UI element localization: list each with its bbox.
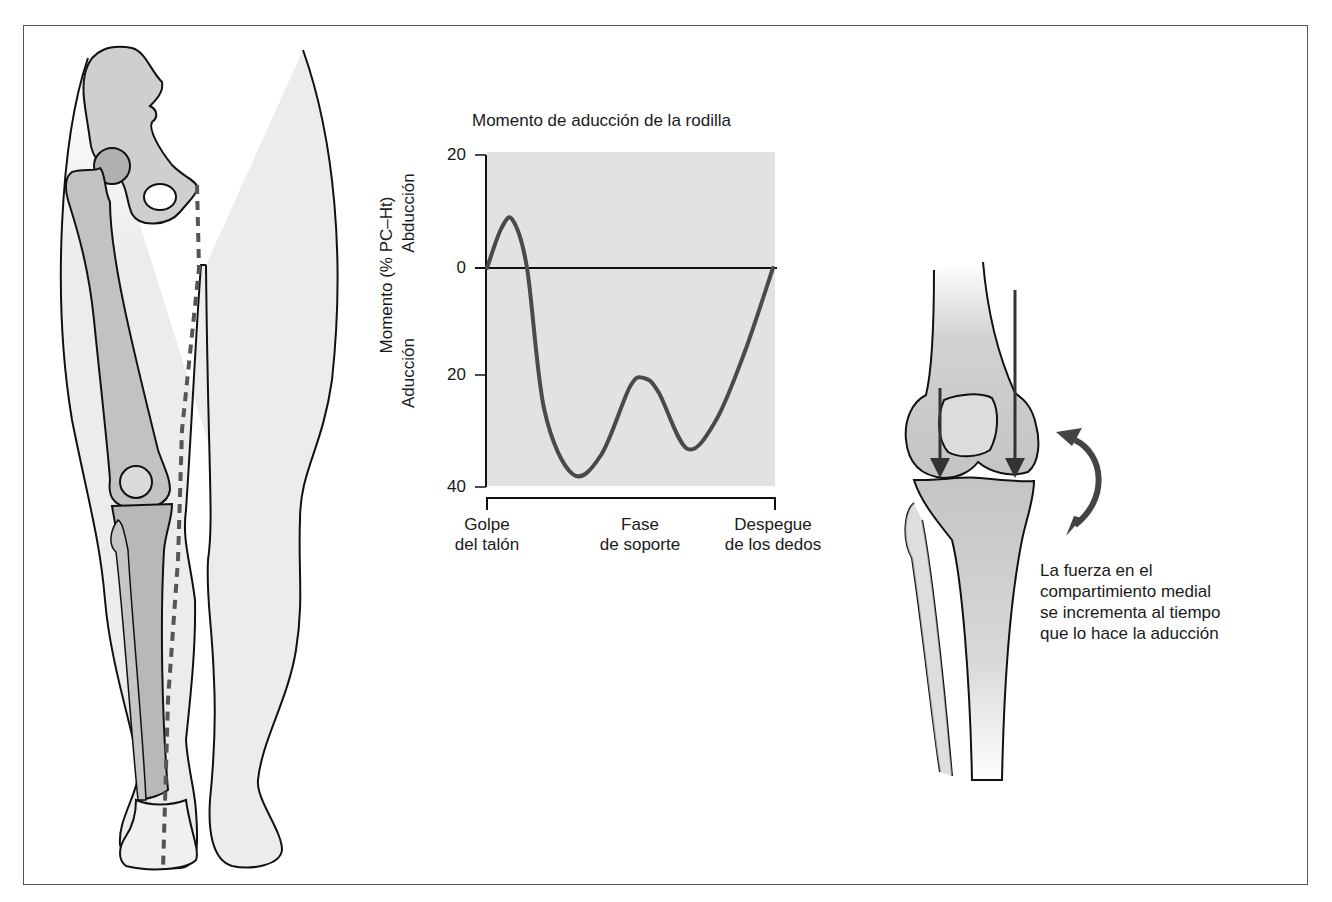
knee-patella [939,394,997,456]
y-tick-20-abduction: 20 [426,145,466,165]
y-axis-label-abduction: Abducción [398,148,420,278]
y-axis-label-adduction: Aducción [398,318,420,428]
x-label-heel-strike: Golpe del talón [422,515,552,555]
illustration-layer [0,0,1332,902]
right-leg-outline [206,50,338,867]
knee-caption: La fuerza en el compartimiento medial se… [1040,560,1220,644]
x-label-stance-phase: Fase de soporte [575,515,705,555]
legs-illustration [61,47,338,870]
y-axis-label: Momento (% PC–Ht) [376,150,398,400]
obturator-foramen [144,184,176,210]
x-axis-bracket [487,498,775,510]
chart-title: Momento de aducción de la rodilla [472,111,731,131]
y-tick-40: 40 [426,477,466,497]
y-tick-20-adduction: 20 [426,365,466,385]
plot-background [487,152,775,486]
knee-illustration [905,262,1098,780]
adduction-curved-arrow [1056,428,1099,536]
patella [120,466,152,498]
y-tick-0: 0 [426,258,466,278]
x-label-toe-off: Despegue de los dedos [703,515,843,555]
chart [475,152,777,510]
